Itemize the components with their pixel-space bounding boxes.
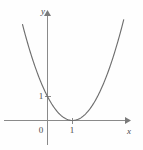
y-tick-label-1: 1 xyxy=(39,91,44,101)
plot-labels-layer: 0 1 1 x y xyxy=(0,0,143,150)
parabola-figure: 0 1 1 x y xyxy=(0,0,143,150)
origin-label: 0 xyxy=(39,125,44,135)
x-axis-label: x xyxy=(126,126,131,136)
y-axis-label: y xyxy=(40,6,45,16)
x-tick-label-1: 1 xyxy=(70,125,75,135)
